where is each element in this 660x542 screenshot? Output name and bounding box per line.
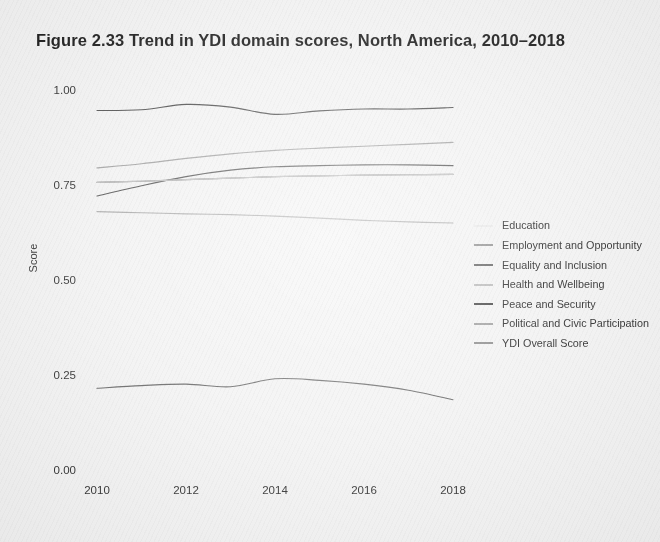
legend-item-label: Employment and Opportunity: [502, 240, 642, 251]
legend-line-swatch: [474, 323, 493, 325]
legend-line-swatch: [474, 284, 493, 286]
legend-item[interactable]: Health and Wellbeing: [474, 275, 649, 295]
legend-line-swatch: [474, 225, 493, 227]
chart-line-peace-and-security: [97, 174, 453, 182]
legend-item-label: Health and Wellbeing: [502, 279, 604, 290]
legend-item-label: Equality and Inclusion: [502, 260, 607, 271]
chart-line-health-and-wellbeing: [97, 104, 453, 114]
x-axis-tick-label: 2014: [250, 484, 300, 496]
chart-line-political-and-civic-participation: [97, 378, 453, 399]
legend-line-swatch: [474, 264, 493, 266]
legend-item-label: Peace and Security: [502, 299, 596, 310]
x-axis-tick-label: 2016: [339, 484, 389, 496]
chart-legend: EducationEmployment and OpportunityEqual…: [474, 216, 649, 353]
y-axis-tick-label: 1.00: [36, 84, 76, 96]
chart-line-employment-and-opportunity: [97, 212, 453, 223]
y-axis-tick-label: 0.25: [36, 369, 76, 381]
legend-line-swatch: [474, 342, 493, 344]
y-axis-tick-label: 0.75: [36, 179, 76, 191]
legend-item[interactable]: Employment and Opportunity: [474, 236, 649, 256]
page-title: Figure 2.33 Trend in YDI domain scores, …: [36, 31, 565, 50]
legend-item[interactable]: Equality and Inclusion: [474, 255, 649, 275]
legend-item[interactable]: YDI Overall Score: [474, 334, 649, 354]
legend-line-swatch: [474, 244, 493, 246]
x-axis-tick-label: 2010: [72, 484, 122, 496]
legend-item-label: Education: [502, 220, 550, 231]
x-axis-tick-label: 2012: [161, 484, 211, 496]
x-axis-tick-label: 2018: [428, 484, 478, 496]
legend-line-swatch: [474, 303, 493, 305]
legend-item[interactable]: Peace and Security: [474, 294, 649, 314]
y-axis-tick-label: 0.00: [36, 464, 76, 476]
y-axis-tick-label: 0.50: [36, 274, 76, 286]
legend-item-label: YDI Overall Score: [502, 338, 588, 349]
legend-item-label: Political and Civic Participation: [502, 318, 649, 329]
legend-item[interactable]: Political and Civic Participation: [474, 314, 649, 334]
chart-line-education: [97, 142, 453, 167]
legend-item[interactable]: Education: [474, 216, 649, 236]
